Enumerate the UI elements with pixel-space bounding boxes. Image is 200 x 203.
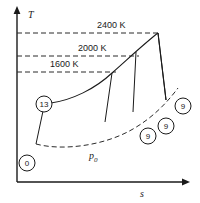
callout-9c: 9 <box>140 128 156 144</box>
callout-9b-label: 9 <box>164 122 169 131</box>
segment-connectors-group <box>105 33 166 122</box>
entropy-axis-arrow <box>182 179 190 186</box>
callout-13: 13 <box>36 96 52 112</box>
callout-0: 0 <box>19 155 35 171</box>
isobar-p0-curve <box>36 88 178 147</box>
ts-diagram-figure: 2400 K 2000 K 1600 K T s p0 13 0 9 9 <box>0 0 200 203</box>
temperature-axis-label: T <box>28 9 35 20</box>
segment-connector-3 <box>158 33 166 100</box>
callout-0-label: 0 <box>25 159 30 168</box>
leader-line-13-to-lower-curve <box>36 111 43 144</box>
segment-connector-1 <box>105 73 112 122</box>
callouts-group: 13 0 9 9 9 <box>19 96 191 171</box>
isotherm-labels-group: 2400 K 2000 K 1600 K <box>50 20 126 69</box>
isobar-curve-group <box>36 88 178 147</box>
entropy-axis-label: s <box>140 188 144 199</box>
callout-9b: 9 <box>158 118 174 134</box>
isobar-label-group: p0 <box>88 150 98 164</box>
isobar-p0-label: p0 <box>88 150 98 164</box>
callout-13-label: 13 <box>40 100 49 109</box>
isobar-zero-subscript: 0 <box>94 156 98 164</box>
temperature-axis-arrow <box>14 6 21 14</box>
isotherm-label-1600k: 1600 K <box>50 59 79 69</box>
segment-connector-2 <box>133 52 136 112</box>
callout-9a-label: 9 <box>181 102 186 111</box>
callout-9a: 9 <box>175 98 191 114</box>
callout-9c-label: 9 <box>146 132 151 141</box>
leader-lines-group <box>36 111 43 144</box>
isotherm-label-2400k: 2400 K <box>97 20 126 30</box>
isotherm-label-2000k: 2000 K <box>78 43 107 53</box>
